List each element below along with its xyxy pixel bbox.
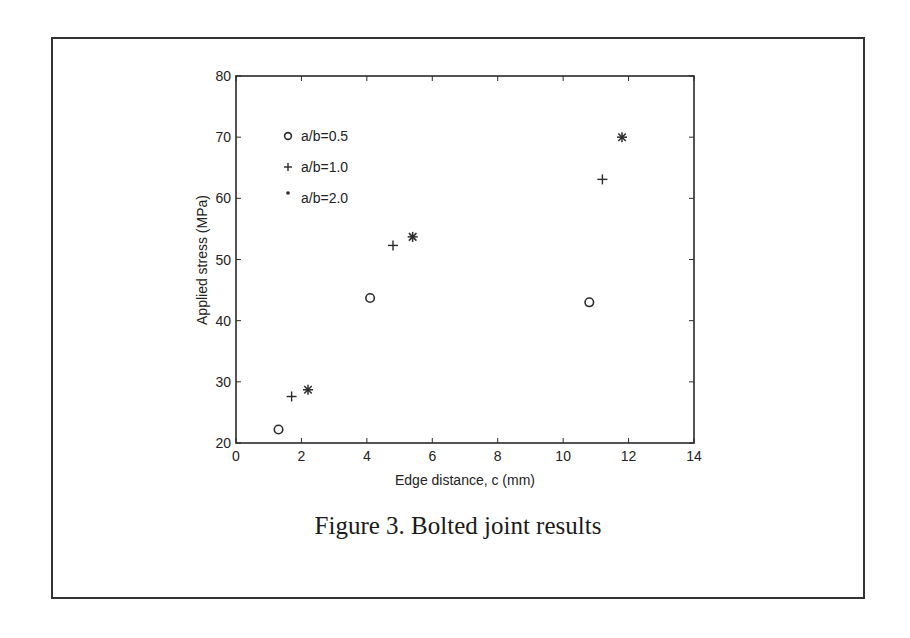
- x-tick-label: 2: [298, 448, 306, 464]
- x-tick-label: 8: [494, 448, 502, 464]
- x-tick-label: 10: [555, 448, 571, 464]
- scatter-chart: 02468101214 20304050607080 Edge distance…: [0, 0, 910, 638]
- y-tick-label: 70: [215, 129, 231, 145]
- y-tick-label: 30: [215, 374, 231, 390]
- x-tick-label: 14: [686, 448, 702, 464]
- y-tick-label: 40: [215, 313, 231, 329]
- legend-label: a/b=0.5: [301, 128, 348, 144]
- y-tick-label: 50: [215, 252, 231, 268]
- asterisk-marker-icon: [617, 132, 627, 142]
- plus-marker-icon: [284, 163, 292, 171]
- legend-label: a/b=1.0: [301, 159, 348, 175]
- x-tick-label: 12: [621, 448, 637, 464]
- figure-caption: Figure 3. Bolted joint results: [51, 512, 865, 540]
- circle-marker-icon: [285, 133, 292, 140]
- y-axis-ticks: 20304050607080: [215, 68, 694, 451]
- circle-marker-icon: [366, 294, 375, 303]
- x-tick-label: 6: [428, 448, 436, 464]
- plus-marker-icon: [388, 240, 398, 250]
- data-points: [274, 132, 627, 434]
- y-tick-label: 20: [215, 435, 231, 451]
- plus-marker-icon: [287, 392, 297, 402]
- x-tick-label: 0: [232, 448, 240, 464]
- asterisk-marker-icon: [303, 385, 313, 395]
- x-axis-label: Edge distance, c (mm): [395, 472, 535, 488]
- x-tick-label: 4: [363, 448, 371, 464]
- dot-marker-icon: [286, 191, 290, 195]
- legend: a/b=0.5a/b=1.0a/b=2.0: [284, 128, 348, 206]
- plus-marker-icon: [597, 174, 607, 184]
- circle-marker-icon: [585, 298, 594, 307]
- y-axis-label: Applied stress (MPa): [194, 195, 210, 325]
- asterisk-marker-icon: [408, 232, 418, 242]
- circle-marker-icon: [274, 425, 283, 434]
- y-tick-label: 80: [215, 68, 231, 84]
- y-tick-label: 60: [215, 190, 231, 206]
- legend-label: a/b=2.0: [301, 190, 348, 206]
